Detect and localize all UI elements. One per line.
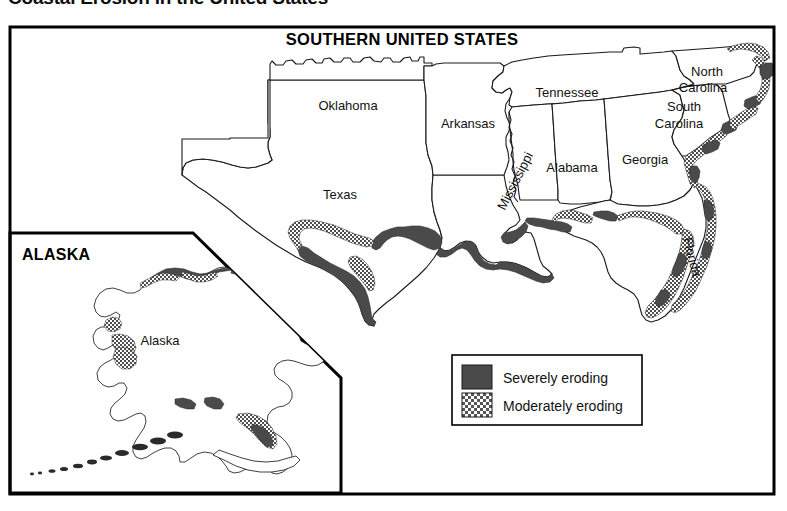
alaska-state-label: Alaska	[140, 333, 180, 348]
coastal-erosion-map-page: Coastal Erosion in the United States	[0, 0, 787, 511]
alaska-inset-title: ALASKA	[22, 246, 91, 263]
state-alabama	[552, 99, 612, 204]
state-label-oklahoma: Oklahoma	[318, 98, 378, 113]
state-label-north: North	[691, 64, 723, 79]
state-label-texas: Texas	[323, 187, 357, 202]
state-label-tennessee: Tennessee	[536, 85, 599, 100]
state-label-alabama: Alabama	[546, 160, 598, 175]
legend-label-moderate: Moderately eroding	[503, 398, 623, 414]
legend-swatch-moderate	[462, 393, 492, 417]
coastal-erosion-map: SOUTHERN UNITED STATES Oklahoma Texas Ar…	[0, 0, 787, 511]
state-label-georgia: Georgia	[622, 152, 669, 167]
state-label-north-carolina: Carolina	[679, 80, 728, 95]
legend-label-severe: Severely eroding	[503, 370, 608, 386]
state-label-south-carolina: Carolina	[655, 116, 704, 131]
map-legend: Severely eroding Moderately eroding	[452, 355, 642, 425]
state-label-arkansas: Arkansas	[441, 116, 496, 131]
legend-swatch-severe	[462, 365, 492, 389]
map-title: SOUTHERN UNITED STATES	[286, 30, 518, 48]
state-label-south: South	[667, 99, 701, 114]
